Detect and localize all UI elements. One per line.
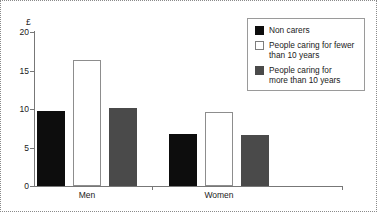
y-axis-tick-mark [30,186,35,187]
y-axis-tick-label: 10 [20,105,29,114]
y-axis-tick-label: 0 [24,182,29,191]
y-axis-tick-label: 20 [20,28,29,37]
bar [241,135,269,186]
plot-area: £ 20151050 MenWomen Non carers People ca… [1,1,377,212]
legend-label-more-than-10-years: People caring for more than 10 years [269,65,340,85]
bar [73,60,101,186]
chart-legend: Non carers People caring for fewer than … [247,18,365,91]
legend-swatch-icon-fewer-than-10-years [255,41,264,50]
x-axis-mid-tick [152,186,153,190]
legend-label-fewer-than-10-years: People caring for fewer than 10 years [269,40,354,60]
y-axis-tick-label: 15 [20,67,29,76]
chart-figure: £ 20151050 MenWomen Non carers People ca… [0,0,377,212]
y-axis-unit-label: £ [26,17,31,27]
x-axis-line [34,186,343,187]
legend-swatch-icon-non-carers [255,26,264,35]
legend-swatch-icon-more-than-10-years [255,66,264,75]
y-axis-tick-mark [30,32,35,33]
bar [37,111,65,186]
y-axis-tick-label: 5 [24,144,29,153]
x-axis-group-label: Men [47,190,127,201]
legend-item-non-carers: Non carers [255,25,358,35]
y-axis-tick-mark [30,148,35,149]
y-axis-tick-mark [30,109,35,110]
bar [109,108,137,186]
legend-label-non-carers: Non carers [269,25,310,35]
y-axis-tick-mark [30,71,35,72]
legend-item-more-than-10-years: People caring for more than 10 years [255,65,358,85]
bar [205,112,233,186]
legend-item-fewer-than-10-years: People caring for fewer than 10 years [255,40,358,60]
x-axis-group-label: Women [179,190,259,201]
bar [169,134,197,186]
x-axis-end-tick [342,186,343,190]
